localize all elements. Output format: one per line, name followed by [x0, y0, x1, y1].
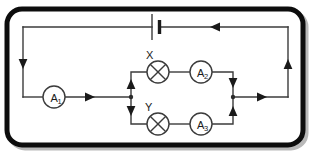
lamp-x-label: X [146, 49, 154, 61]
ammeter-2-subscript: 2 [204, 72, 208, 81]
ammeter-1-subscript: 1 [58, 97, 62, 106]
junction-right [231, 95, 235, 99]
ammeter-1: A 1 [43, 86, 65, 108]
ammeter-3: A 3 [190, 113, 212, 135]
ammeter-2: A 2 [190, 61, 212, 83]
circuit-diagram-figure: A 1 X A 2 Y A 3 [0, 0, 310, 152]
lamp-y-label: Y [145, 101, 153, 113]
junction-left [129, 95, 133, 99]
circuit-diagram-svg: A 1 X A 2 Y A 3 [0, 0, 310, 152]
ammeter-3-subscript: 3 [204, 124, 208, 133]
